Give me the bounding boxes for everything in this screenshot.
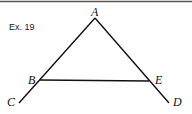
- label-C: C: [7, 95, 16, 109]
- label-A: A: [90, 5, 99, 19]
- label-D: D: [172, 95, 182, 109]
- exercise-label: Ex. 19: [9, 22, 35, 32]
- label-E: E: [154, 73, 163, 87]
- segment-BE: [40, 80, 149, 81]
- line-AD: [95, 18, 169, 103]
- geometry-figure: Ex. 19 A B E C D: [0, 0, 192, 114]
- label-B: B: [28, 73, 36, 87]
- triangle-diagram: Ex. 19 A B E C D: [0, 0, 192, 114]
